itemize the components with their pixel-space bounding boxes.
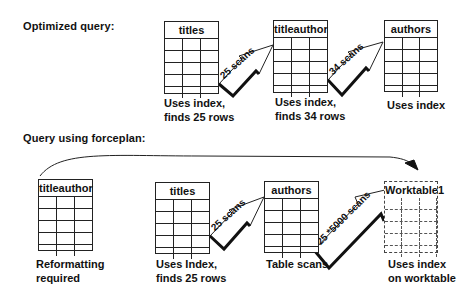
caption-titleauthor-optimized: Uses index, finds 34 rows — [275, 95, 345, 123]
caption-authors-forceplan: Table scans — [266, 257, 328, 271]
table-header: titles — [156, 183, 209, 200]
caption-titleauthor-forceplan: Reformatting required — [36, 257, 104, 285]
reformat-curve-arrow — [40, 155, 418, 176]
caption-titles-optimized: Uses index, finds 25 rows — [164, 96, 234, 124]
table-header: authors — [265, 182, 318, 199]
caption-worktable1-forceplan: Uses index on worktable — [388, 257, 456, 285]
table-header: titleauthor — [274, 21, 327, 38]
table-titleauthor-optimized: titleauthor — [273, 20, 328, 93]
table-header: authors — [385, 21, 437, 38]
table-authors-forceplan: authors — [264, 181, 319, 253]
table-worktable1-forceplan: Worktable1 — [384, 181, 438, 253]
caption-authors-optimized: Uses index — [387, 98, 445, 112]
table-titles-forceplan: titles — [155, 182, 210, 254]
table-header: titles — [165, 22, 218, 39]
table-authors-optimized: authors — [384, 20, 438, 92]
caption-titles-forceplan: Uses Index, finds 25 rows — [156, 257, 226, 285]
table-titles-optimized: titles — [164, 21, 219, 94]
table-header: titleauthor — [39, 180, 92, 197]
table-header: Worktable1 — [385, 182, 437, 198]
table-titleauthor-forceplan: titleauthor — [38, 179, 93, 251]
